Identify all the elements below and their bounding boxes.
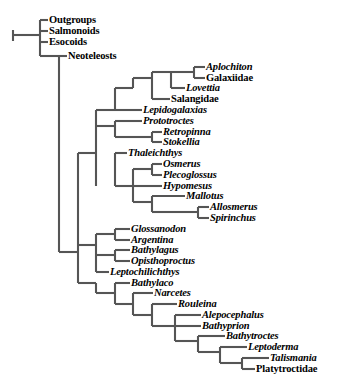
taxon-label-spirinchus: Spirinchus <box>210 213 256 224</box>
taxon-label-esocoids: Esocoids <box>49 37 87 48</box>
taxon-label-opisthoproctus: Opisthoproctus <box>131 256 195 267</box>
taxon-label-thaleichthys: Thaleichthys <box>128 148 182 159</box>
taxon-label-lepidogalaxias: Lepidogalaxias <box>143 105 207 116</box>
taxon-label-leptoderma: Leptoderma <box>248 342 298 353</box>
taxon-label-neoteleosts: Neoteleosts <box>68 51 117 62</box>
taxon-label-stokellia: Stokellia <box>163 137 200 148</box>
taxon-label-narcetes: Narcetes <box>154 288 191 299</box>
taxon-label-osmerus: Osmerus <box>163 159 200 170</box>
taxon-label-leptochilichthys: Leptochilichthys <box>110 267 179 278</box>
taxon-label-salmonoids: Salmonoids <box>49 26 99 37</box>
taxon-label-aplochiton: Aplochiton <box>206 62 252 73</box>
tree-branches <box>0 0 350 384</box>
taxon-label-prototroctes: Prototroctes <box>143 116 194 127</box>
taxon-label-rouleina: Rouleina <box>178 299 216 310</box>
taxon-label-lovettia: Lovettia <box>186 83 220 94</box>
taxon-label-alepocephalus: Alepocephalus <box>202 310 264 321</box>
taxon-label-allosmerus: Allosmerus <box>210 202 258 213</box>
taxon-label-talismania: Talismania <box>270 353 317 364</box>
taxon-label-glossanodon: Glossanodon <box>131 224 186 235</box>
taxon-label-bathylagus: Bathylagus <box>131 245 179 256</box>
taxon-label-salangidae: Salangidae <box>171 94 219 105</box>
taxon-label-bathytroctes: Bathytroctes <box>226 331 278 342</box>
cladogram-figure: OutgroupsSalmonoidsEsocoidsNeoteleostsAp… <box>0 0 350 384</box>
taxon-label-plecoglossus: Plecoglossus <box>163 170 217 181</box>
taxon-label-outgroups: Outgroups <box>49 15 96 26</box>
taxon-label-mallotus: Mallotus <box>186 191 223 202</box>
taxon-label-platytroctidae: Platytroctidae <box>256 364 317 375</box>
